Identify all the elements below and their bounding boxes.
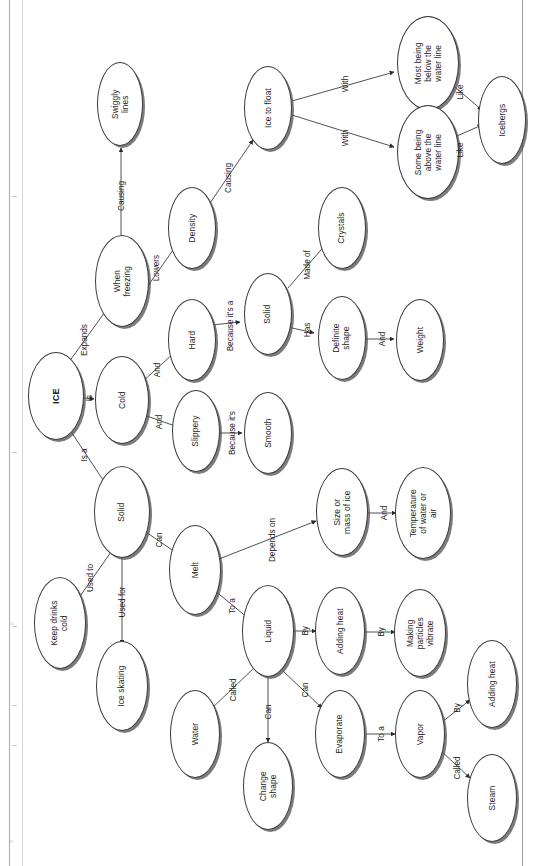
concept-edge-label: And	[378, 332, 387, 347]
concept-node-label: Vapor	[415, 723, 425, 745]
concept-node-slippery[interactable]: Slippery	[172, 390, 220, 472]
concept-node-label: Slippery	[191, 415, 201, 446]
concept-node-cold[interactable]: Cold	[95, 356, 149, 444]
concept-node-label: Water	[190, 723, 200, 746]
concept-node-changeshape[interactable]: Change shape	[243, 742, 293, 830]
concept-node-solid2[interactable]: Solid	[94, 466, 150, 558]
concept-edge-label: Called	[229, 678, 238, 701]
concept-node-solid1[interactable]: Solid	[244, 273, 292, 355]
concept-edge-label: Has	[303, 323, 312, 338]
concept-node-swiggly[interactable]: Swiggly lines	[97, 62, 143, 146]
concept-node-label: Temperature of water or air	[408, 489, 439, 537]
concept-node-addingheat2[interactable]: Adding heat	[467, 640, 517, 728]
concept-node-whenfreezing[interactable]: When freezing	[95, 235, 149, 327]
concept-node-label: Keep drinks cold	[50, 600, 70, 645]
concept-node-addingheat1[interactable]: Adding heat	[315, 587, 365, 675]
concept-node-label: Melt	[190, 562, 200, 578]
concept-node-water[interactable]: Water	[170, 690, 220, 778]
concept-node-label: Hard	[187, 331, 197, 350]
concept-node-label: Crystals	[337, 212, 347, 243]
concept-node-label: Density	[187, 214, 197, 243]
concept-edge-label: With	[341, 130, 350, 146]
concept-node-vapor[interactable]: Vapor	[395, 690, 445, 778]
concept-edge-label: To a	[228, 598, 237, 613]
concept-edge-label: Causing	[117, 181, 126, 211]
concept-node-label: Liquid	[263, 620, 273, 643]
concept-node-label: Solid	[117, 502, 127, 521]
concept-node-temperature[interactable]: Temperature of water or air	[395, 467, 451, 559]
concept-node-weight[interactable]: Weight	[396, 299, 444, 381]
concept-edge-label: Depends on	[268, 518, 277, 562]
concept-node-label: Cold	[117, 391, 127, 409]
concept-edge-label: Is a	[80, 448, 89, 461]
concept-node-label: Adding heat	[335, 608, 345, 654]
concept-edge-label: Causing	[224, 163, 233, 193]
concept-edge-label: By	[301, 626, 310, 636]
concept-node-crystals[interactable]: Crystals	[318, 187, 366, 269]
concept-node-label: Swiggly lines	[110, 89, 130, 119]
concept-node-label: Some being above the water line	[413, 129, 444, 175]
concept-node-someabove[interactable]: Some being above the water line	[397, 105, 459, 199]
concept-edge-label: And	[153, 363, 162, 378]
concept-edge-label: With	[341, 76, 350, 92]
concept-node-vibrate[interactable]: Making particles vibrate	[394, 589, 446, 677]
concept-node-label: Size or mass of ice	[332, 490, 352, 533]
concept-edge-label: Made of	[303, 250, 312, 280]
concept-node-definite[interactable]: Definite shape	[318, 296, 366, 380]
concept-node-sizemass[interactable]: Size or mass of ice	[316, 468, 368, 556]
concept-node-steam[interactable]: Steam	[467, 754, 517, 842]
concept-edge-label: By	[377, 627, 386, 637]
concept-edge-label: To a	[377, 726, 386, 741]
concept-node-label: Making particles vibrate	[405, 617, 436, 649]
concept-node-density[interactable]: Density	[168, 187, 216, 269]
concept-node-liquid[interactable]: Liquid	[242, 585, 294, 677]
concept-node-melt[interactable]: Melt	[169, 525, 221, 615]
concept-node-label: Icebergs	[497, 104, 507, 137]
concept-node-label: Steam	[487, 786, 497, 811]
concept-node-label: Smooth	[263, 418, 273, 447]
concept-node-label: Definite shape	[332, 323, 352, 352]
concept-node-iceskating[interactable]: Ice skating	[96, 641, 148, 731]
concept-node-label: Ice skating	[117, 665, 127, 706]
concept-map-page: o o ICEColdWhen freezingSwiggly linesDen…	[0, 0, 547, 866]
concept-edge-label: Can	[301, 682, 310, 697]
concept-edge-label: Used to	[86, 564, 95, 592]
concept-node-label: Adding heat	[487, 661, 497, 707]
concept-edge-label: Is	[85, 395, 94, 401]
concept-node-label: When freezing	[112, 266, 132, 297]
concept-edge-label: And	[380, 506, 389, 521]
concept-node-label: Evaporate	[335, 714, 345, 753]
concept-edge-label: Because it's	[228, 411, 237, 455]
concept-node-evaporate[interactable]: Evaporate	[315, 690, 365, 778]
concept-edge-label: Used for	[118, 587, 127, 618]
concept-node-label: ICE	[51, 388, 61, 404]
concept-node-label: Change shape	[258, 771, 278, 801]
concept-edge-label: Lowers	[152, 255, 161, 281]
concept-node-mostbelow[interactable]: Most being below the water line	[397, 16, 459, 110]
concept-node-hard[interactable]: Hard	[168, 299, 216, 381]
concept-edge-label: Can	[264, 704, 273, 719]
concept-edge-label: Can	[155, 532, 164, 547]
concept-node-label: Most being below the water line	[413, 42, 444, 84]
concept-edge-label: Expands	[80, 324, 89, 356]
concept-edge-label: Called	[453, 756, 462, 779]
concept-node-icebergs[interactable]: Icebergs	[478, 76, 526, 164]
concept-node-keepdrinks[interactable]: Keep drinks cold	[34, 577, 86, 669]
concept-edge-label: Because it's a	[226, 301, 235, 352]
concept-node-icetofloat[interactable]: Ice to float	[244, 66, 292, 150]
concept-edge-label: Like	[456, 142, 465, 157]
concept-edge-label: Like	[456, 84, 465, 99]
concept-node-smooth[interactable]: Smooth	[244, 392, 292, 474]
concept-node-label: Ice to float	[263, 88, 273, 128]
concept-edge-label: By	[453, 703, 462, 713]
concept-node-label: Weight	[415, 327, 425, 354]
concept-edge-label: And	[155, 415, 164, 430]
concept-node-label: Solid	[263, 304, 273, 323]
concept-node-ice[interactable]: ICE	[28, 352, 84, 440]
